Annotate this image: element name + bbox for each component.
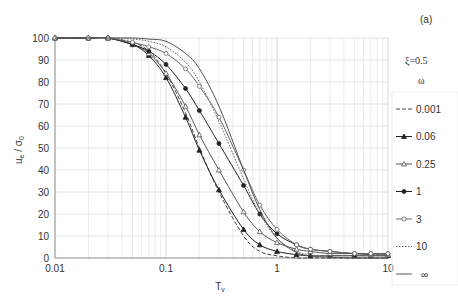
y-tick-label: 60 (38, 121, 50, 132)
legend-box (392, 92, 458, 285)
y-tick-label: 50 (38, 143, 50, 154)
series-layer (53, 36, 391, 259)
legend-item-0.25: 0.25 (396, 159, 436, 170)
legend-label: 0.001 (416, 104, 441, 115)
legend-item-∞: ∞ (396, 269, 428, 280)
legend-title: ξ=0.5 (405, 55, 428, 67)
legend-label: 10 (416, 241, 428, 252)
legend-label: ∞ (421, 269, 428, 280)
legend-label: 0.06 (416, 131, 436, 142)
legend: 0.0010.060.251310∞ (396, 104, 441, 280)
y-tick-label: 0 (43, 253, 49, 264)
series-0.25 (53, 36, 391, 257)
y-tick-label: 10 (38, 231, 50, 242)
x-axis-label: Tv (215, 281, 225, 293)
legend-item-1: 1 (396, 186, 422, 197)
y-tick-label: 100 (32, 33, 49, 44)
y-tick-label: 20 (38, 209, 50, 220)
y-tick-label: 40 (38, 165, 50, 176)
series-1 (53, 36, 390, 256)
legend-subtitle: ω (418, 75, 425, 86)
legend-item-3: 3 (396, 214, 422, 225)
chart: 01020304050607080901000.010.1110 Tv ue /… (0, 0, 458, 304)
legend-item-0.001: 0.001 (396, 104, 441, 115)
legend-label: 0.25 (416, 159, 436, 170)
panel-label: (a) (420, 14, 432, 25)
axes: 01020304050607080901000.010.1110 (32, 33, 394, 275)
legend-label: 3 (416, 214, 422, 225)
y-axis-label: ue / σ0 (13, 136, 25, 164)
x-tick-label: 0.1 (159, 263, 173, 274)
legend-label: 1 (416, 186, 422, 197)
legend-item-0.06: 0.06 (396, 131, 436, 142)
y-tick-label: 80 (38, 77, 50, 88)
x-tick-label: 1 (274, 263, 280, 274)
series-3 (53, 36, 390, 256)
series-0.06 (53, 36, 391, 258)
x-tick-label: 0.01 (45, 263, 65, 274)
y-tick-label: 30 (38, 187, 50, 198)
y-tick-label: 90 (38, 55, 50, 66)
legend-item-10: 10 (396, 241, 428, 252)
y-tick-label: 70 (38, 99, 50, 110)
